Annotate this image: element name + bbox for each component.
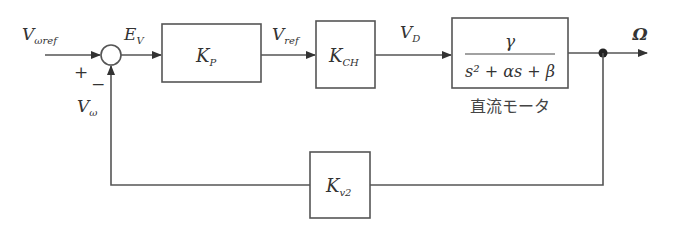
error-label: EV bbox=[123, 24, 145, 46]
feedback-label: Vω bbox=[77, 96, 97, 118]
kv2-block bbox=[310, 152, 370, 218]
motor-caption: 直流モータ bbox=[470, 97, 550, 116]
feedback-line-left bbox=[111, 66, 310, 185]
kch-block bbox=[316, 21, 375, 88]
plus-sign: + bbox=[74, 62, 88, 82]
vref-label: Vref bbox=[272, 24, 301, 46]
vd-label: VD bbox=[400, 22, 420, 44]
block-diagram: Vωref + − Vω EV KP Vref KCH VD γ s² + αs… bbox=[0, 0, 678, 229]
summing-junction bbox=[101, 45, 121, 65]
motor-numerator: γ bbox=[505, 31, 516, 51]
motor-denominator: s² + αs + β bbox=[465, 62, 555, 81]
input-label: Vωref bbox=[22, 24, 59, 46]
minus-sign: − bbox=[91, 74, 105, 94]
kp-block bbox=[162, 24, 261, 82]
output-label: Ω bbox=[631, 24, 647, 44]
